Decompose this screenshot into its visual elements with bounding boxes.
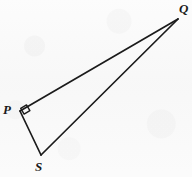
vertex-label-s: S <box>35 160 42 173</box>
segment-ps <box>20 111 41 155</box>
vertex-label-q: Q <box>179 2 188 15</box>
geometry-figure: P Q S <box>0 0 192 177</box>
vertex-label-p: P <box>3 103 11 116</box>
triangle-drawing <box>0 0 192 177</box>
triangle-segments <box>20 19 178 155</box>
